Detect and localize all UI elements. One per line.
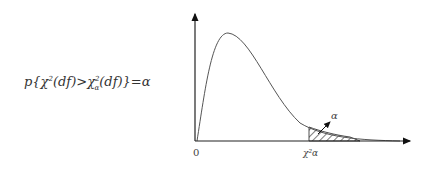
density-curve xyxy=(197,33,400,141)
chi-square-diagram: α 0 χ²α xyxy=(0,0,433,171)
tail-area xyxy=(309,127,360,141)
critical-value-label: χ²α xyxy=(302,148,318,158)
alpha-label: α xyxy=(331,110,338,121)
origin-label: 0 xyxy=(193,147,199,158)
